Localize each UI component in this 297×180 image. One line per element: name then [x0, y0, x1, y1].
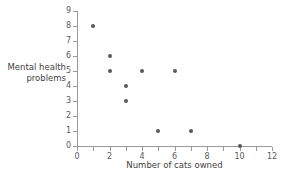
data-point — [108, 69, 112, 73]
y-tick-label: 5 — [66, 67, 71, 75]
y-tick-mark — [73, 26, 77, 27]
y-tick-mark — [73, 116, 77, 117]
x-tick-mark — [158, 147, 159, 151]
data-point — [238, 144, 242, 148]
y-axis-title-line-2: problems — [2, 73, 66, 84]
y-tick-label: 7 — [66, 37, 71, 45]
y-tick-label: 8 — [66, 22, 71, 30]
y-axis-title: Mental health problems — [2, 62, 66, 83]
data-point — [108, 54, 112, 58]
y-tick-label: 3 — [66, 97, 71, 105]
x-tick-label: 0 — [74, 153, 79, 161]
y-axis-line — [77, 11, 78, 146]
plot-area: 0123456789 024681012 — [77, 11, 272, 146]
y-tick-mark — [73, 56, 77, 57]
y-tick-label: 9 — [66, 7, 71, 15]
y-axis-title-line-1: Mental health — [2, 62, 66, 73]
x-tick-mark — [126, 147, 127, 151]
x-tick-mark — [191, 147, 192, 151]
x-tick-mark — [256, 147, 257, 151]
x-tick-mark — [223, 147, 224, 151]
y-tick-label: 2 — [66, 112, 71, 120]
y-tick-label: 4 — [66, 82, 71, 90]
x-axis-title: Number of cats owned — [77, 161, 272, 170]
x-tick-mark — [272, 147, 273, 151]
x-tick-mark — [77, 147, 78, 151]
y-tick-label: 1 — [66, 127, 71, 135]
x-tick-label: 12 — [267, 153, 277, 161]
x-tick-label: 2 — [107, 153, 112, 161]
x-tick-mark — [142, 147, 143, 151]
y-tick-mark — [73, 41, 77, 42]
data-point — [189, 129, 193, 133]
data-point — [91, 24, 95, 28]
y-tick-mark — [73, 101, 77, 102]
y-tick-label: 0 — [66, 142, 71, 150]
x-tick-mark — [207, 147, 208, 151]
x-tick-mark — [175, 147, 176, 151]
y-tick-mark — [73, 11, 77, 12]
x-tick-label: 10 — [234, 153, 244, 161]
x-tick-mark — [93, 147, 94, 151]
y-tick-mark — [73, 131, 77, 132]
data-point — [156, 129, 160, 133]
x-tick-mark — [110, 147, 111, 151]
data-point — [173, 69, 177, 73]
data-point — [124, 84, 128, 88]
data-point — [124, 99, 128, 103]
y-tick-mark — [73, 86, 77, 87]
data-point — [140, 69, 144, 73]
y-tick-mark — [73, 71, 77, 72]
scatter-chart: Mental health problems 0123456789 024681… — [0, 0, 297, 180]
y-tick-label: 6 — [66, 52, 71, 60]
